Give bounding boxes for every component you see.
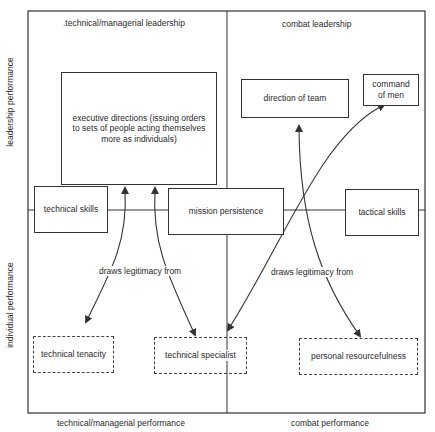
box-direction-of-team: direction of team bbox=[241, 79, 349, 118]
box-technical-tenacity-text: technical tenacity bbox=[41, 349, 106, 360]
box-technical-specialist: technical specialist bbox=[154, 337, 247, 374]
box-tactical-skills-text: tactical skills bbox=[356, 207, 407, 218]
box-technical-skills: technical skills bbox=[34, 186, 108, 233]
edge-label-left: draws legitimacy from bbox=[97, 266, 183, 276]
box-technical-skills-text: technical skills bbox=[42, 204, 100, 215]
x-axis-label-right: combat performance bbox=[291, 418, 369, 428]
edge-label-right: draws legitimacy from bbox=[269, 267, 355, 277]
y-axis-label-top: leadership performance bbox=[5, 57, 15, 147]
header-technical-managerial-leadership: .technical/managerial leadership bbox=[63, 18, 185, 28]
box-personal-resourcefulness: personal resourcefulness bbox=[299, 338, 418, 375]
box-executive-directions-text: executive directions (issuing orders to … bbox=[68, 113, 210, 145]
box-technical-tenacity: technical tenacity bbox=[33, 336, 114, 373]
box-direction-of-team-text: direction of team bbox=[264, 93, 327, 104]
box-executive-directions: executive directions (issuing orders to … bbox=[61, 72, 217, 185]
box-tactical-skills: tactical skills bbox=[345, 189, 419, 236]
y-axis-label-bottom: individual performance bbox=[5, 260, 15, 350]
x-axis-label-left: technical/managerial performance bbox=[57, 418, 185, 428]
box-command-of-men-text: command of men bbox=[372, 79, 410, 100]
box-mission-persistence-text: mission persistence bbox=[187, 206, 266, 217]
box-mission-persistence: mission persistence bbox=[168, 188, 284, 235]
header-combat-leadership: combat leadership bbox=[282, 19, 351, 29]
box-personal-resourcefulness-text: personal resourcefulness bbox=[311, 351, 406, 362]
box-command-of-men: command of men bbox=[363, 74, 419, 106]
box-technical-specialist-text: technical specialist bbox=[164, 350, 237, 361]
